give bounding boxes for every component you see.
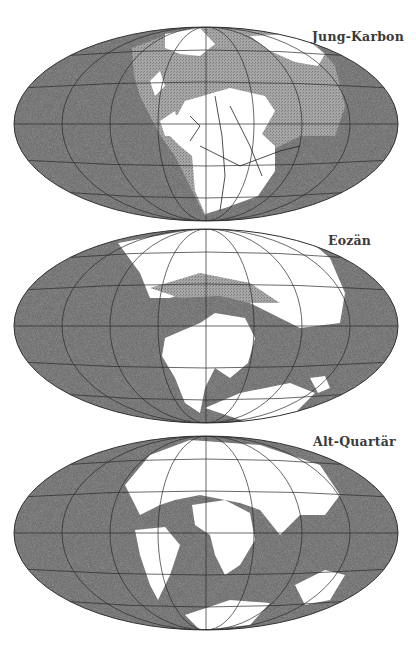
world-map-alt-quartaer: [0, 435, 416, 633]
map-label: Alt-Quartär: [313, 434, 396, 449]
map-panel-eozaen: Eozän: [0, 228, 416, 426]
map-panel-jung-karbon: Jung-Karbon: [0, 26, 416, 224]
world-map-eozaen: [0, 228, 416, 426]
map-label: Eozän: [328, 233, 371, 248]
map-panel-alt-quartaer: Alt-Quartär: [0, 435, 416, 633]
world-map-jung-karbon: [0, 26, 416, 224]
map-label: Jung-Karbon: [312, 29, 404, 44]
